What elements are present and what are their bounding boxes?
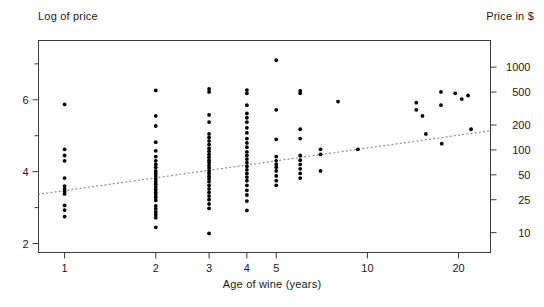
data-point (207, 136, 211, 140)
y-axis-right-tick-label: 200 (512, 119, 530, 131)
data-point (63, 176, 67, 180)
data-point (245, 193, 249, 197)
y-axis-right-tick-label: 25 (518, 194, 530, 206)
data-point (245, 164, 249, 168)
data-point (63, 192, 67, 196)
data-point (245, 88, 249, 92)
data-point (319, 147, 323, 151)
y-axis-left-title: Log of price (38, 10, 98, 22)
data-point (207, 120, 211, 124)
y-axis-left-tick-label: 6 (22, 94, 28, 106)
x-axis-tick-label: 10 (361, 262, 373, 274)
data-point (356, 147, 360, 151)
data-point (154, 89, 158, 93)
data-point (460, 97, 464, 101)
plot-canvas: 2461025501002005001000123451020 (0, 0, 544, 307)
x-axis-title: Age of wine (years) (0, 278, 544, 290)
data-point (154, 124, 158, 128)
data-point (154, 149, 158, 153)
data-point (207, 183, 211, 187)
y-axis-right-tick-label: 10 (518, 227, 530, 239)
y-axis-right-tick-label: 500 (512, 86, 530, 98)
data-point (298, 137, 302, 141)
data-point (207, 139, 211, 143)
data-point (154, 140, 158, 144)
data-point (207, 198, 211, 202)
data-point (298, 154, 302, 158)
data-point (207, 90, 211, 94)
data-point (245, 137, 249, 141)
data-point (274, 155, 278, 159)
data-point (207, 206, 211, 210)
data-point (245, 91, 249, 95)
data-point (154, 155, 158, 159)
data-point (245, 183, 249, 187)
data-point (298, 172, 302, 176)
data-point (298, 167, 302, 171)
data-point (154, 114, 158, 118)
y-axis-right-title: Price in $ (486, 10, 534, 22)
data-point (154, 207, 158, 211)
data-point (453, 91, 457, 95)
data-point (245, 141, 249, 145)
data-point (207, 180, 211, 184)
data-point (245, 131, 249, 135)
y-axis-right-tick-label: 100 (512, 144, 530, 156)
data-point (63, 215, 67, 219)
data-point (245, 103, 249, 107)
data-point (245, 120, 249, 124)
data-point (207, 143, 211, 147)
data-point (245, 179, 249, 183)
data-point (245, 154, 249, 158)
data-point (207, 132, 211, 136)
data-point (245, 157, 249, 161)
data-point (245, 112, 249, 116)
data-point (154, 216, 158, 220)
data-point (298, 91, 302, 95)
data-point (245, 188, 249, 192)
x-axis-tick-label: 2 (153, 262, 159, 274)
x-axis-tick-label: 3 (206, 262, 212, 274)
data-point (245, 150, 249, 154)
data-point (63, 154, 67, 158)
x-axis-tick-label: 5 (273, 262, 279, 274)
data-point (207, 113, 211, 117)
data-point (63, 159, 67, 163)
data-point (245, 168, 249, 172)
data-point (274, 174, 278, 178)
y-axis-left-tick-label: 2 (22, 238, 28, 250)
x-axis-tick-label: 4 (244, 262, 250, 274)
data-point (466, 94, 470, 98)
data-point (298, 176, 302, 180)
plot-frame (39, 41, 491, 253)
data-point (245, 172, 249, 176)
data-point (274, 108, 278, 112)
data-point (274, 137, 278, 141)
data-point (319, 153, 323, 157)
wine-price-scatter-figure: Log of price Price in $ 2461025501002005… (0, 0, 544, 307)
data-point (274, 159, 278, 163)
data-point (424, 132, 428, 136)
data-point (439, 103, 443, 107)
y-axis-left-tick-label: 4 (22, 166, 28, 178)
data-point (207, 149, 211, 153)
y-axis-right-tick-label: 1000 (506, 61, 530, 73)
data-point (63, 208, 67, 212)
data-point (207, 187, 211, 191)
data-point (245, 116, 249, 120)
trend-line (39, 131, 491, 195)
data-point (440, 142, 444, 146)
data-point (298, 158, 302, 162)
data-point (63, 147, 67, 151)
data-point (274, 169, 278, 173)
data-point (298, 163, 302, 167)
data-point (274, 183, 278, 187)
data-point (274, 58, 278, 62)
data-point (63, 204, 67, 208)
data-point (414, 101, 418, 105)
data-point (207, 194, 211, 198)
data-point (439, 90, 443, 94)
data-point (245, 175, 249, 179)
data-point (154, 225, 158, 229)
data-point (207, 191, 211, 195)
